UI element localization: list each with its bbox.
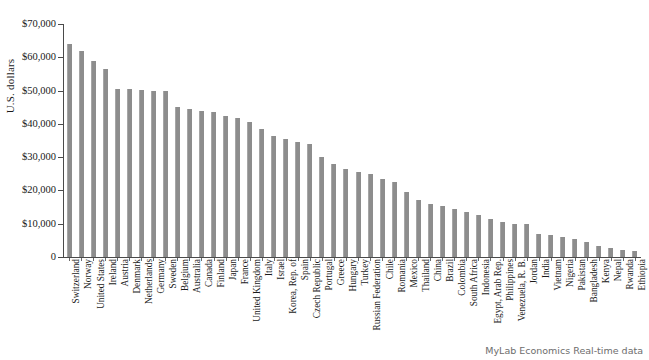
plot-area [63, 24, 641, 257]
x-axis-category-label: Brazil [446, 259, 455, 282]
y-axis-tick [58, 257, 63, 258]
bar [548, 235, 553, 257]
x-axis-category-label: Rwanda [626, 259, 635, 289]
bar [235, 118, 240, 257]
bar [79, 51, 84, 257]
x-axis-category-label: India [542, 259, 551, 278]
x-axis-category-label: Sweden [169, 259, 178, 288]
bar [404, 192, 409, 257]
bar [536, 234, 541, 257]
x-axis-category-label: Nigeria [566, 259, 575, 287]
x-axis-category-labels: SwitzerlandNorwayUnited StatesIrelandAus… [63, 259, 641, 357]
bar-chart: U.S. dollars 0$10,000$20,000$30,000$40,0… [0, 0, 649, 360]
bar [380, 179, 385, 257]
y-axis-tick-label: $50,000 [22, 85, 56, 96]
bar [632, 251, 637, 257]
bar [187, 109, 192, 257]
x-axis-category-label: Ireland [109, 259, 118, 285]
y-axis-tick [58, 157, 63, 158]
bar [91, 61, 96, 257]
x-axis-category-label: Austria [121, 259, 130, 286]
bar [223, 116, 228, 257]
bar [211, 112, 216, 257]
bar [283, 139, 288, 257]
bar [440, 206, 445, 257]
bar [524, 224, 529, 257]
x-axis-category-label: Vietnam [554, 259, 563, 290]
x-axis-category-label: United States [97, 259, 106, 309]
bar [295, 142, 300, 257]
bar [368, 174, 373, 257]
x-axis-category-label: Colombia [458, 259, 467, 296]
x-axis-category-label: Russian Federation [373, 259, 382, 331]
bar [356, 172, 361, 257]
x-axis-category-label: Bangladesh [590, 259, 599, 302]
bar [127, 89, 132, 257]
x-axis-category-label: Portugal [325, 259, 334, 291]
bar [584, 242, 589, 257]
x-axis-category-label: Czech Republic [313, 259, 322, 318]
bar [343, 169, 348, 257]
y-axis-tick-label: 0 [51, 252, 56, 263]
y-axis-tick-label: $10,000 [22, 218, 56, 229]
x-axis-category-label: Jordan [530, 259, 539, 284]
x-axis-category-label: Thailand [422, 259, 431, 292]
bar [608, 248, 613, 257]
y-axis-tick [58, 224, 63, 225]
y-axis-tick-label: $70,000 [22, 19, 56, 30]
y-axis-tick-label: $60,000 [22, 52, 56, 63]
x-axis-category-label: Egypt, Arab Rep. [494, 259, 503, 324]
bar [416, 200, 421, 257]
bar [151, 91, 156, 257]
x-axis-category-label: Philippines [506, 259, 515, 301]
y-axis-tick-label: $20,000 [22, 185, 56, 196]
x-axis-category-label: Denmark [133, 259, 142, 294]
y-axis-tick [58, 57, 63, 58]
x-axis-category-label: Kenya [602, 259, 611, 283]
x-axis-category-label: United Kingdom [253, 259, 262, 322]
bar [572, 239, 577, 257]
y-axis-tick [58, 124, 63, 125]
y-axis-tick [58, 91, 63, 92]
bar [620, 250, 625, 257]
x-axis-category-label: Ethiopia [638, 259, 647, 291]
bar [476, 215, 481, 257]
x-axis-category-label: Italy [265, 259, 274, 276]
x-axis-category-label: Belgium [181, 259, 190, 291]
x-axis-category-label: Canada [205, 259, 214, 287]
bar [307, 144, 312, 257]
x-axis-category-label: Finland [217, 259, 226, 287]
x-axis-category-label: Japan [229, 259, 238, 280]
bar [512, 224, 517, 257]
bar [199, 111, 204, 257]
bar [560, 237, 565, 257]
bar [464, 212, 469, 257]
y-axis-tick-label: $40,000 [22, 119, 56, 130]
x-axis-category-label: Greece [337, 259, 346, 285]
bar [331, 164, 336, 257]
bar [259, 129, 264, 257]
bar [392, 182, 397, 257]
y-axis-title: U.S. dollars [4, 46, 20, 126]
x-axis-category-label: Venezuela, R. B. [518, 259, 527, 321]
footer-note: MyLab Economics Real-time data [485, 345, 643, 356]
bar [428, 204, 433, 257]
bar [67, 44, 72, 257]
bars-layer [63, 24, 641, 257]
y-axis-tick [58, 190, 63, 191]
bar [500, 222, 505, 257]
x-axis-category-label: Pakistan [578, 259, 587, 291]
bar [596, 246, 601, 257]
x-axis-category-label: South Africa [470, 259, 479, 306]
x-axis-category-label: Netherlands [145, 259, 154, 304]
x-axis-category-label: Israel [277, 259, 286, 280]
bar [139, 90, 144, 257]
bar [115, 89, 120, 257]
x-axis-category-label: Spain [301, 259, 310, 280]
bar [175, 107, 180, 257]
x-axis-category-label: Hungary [349, 259, 358, 292]
x-axis-category-label: Australia [193, 259, 202, 293]
y-axis-tick [58, 24, 63, 25]
x-axis-category-label: Romania [398, 259, 407, 293]
bar [103, 69, 108, 257]
